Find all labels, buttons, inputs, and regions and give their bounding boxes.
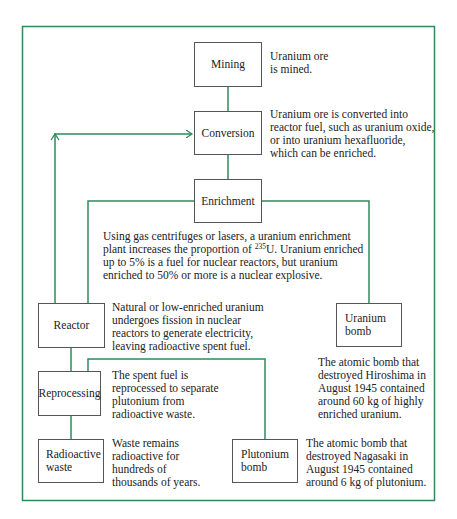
desc-line: Natural or low-enriched uranium (112, 301, 264, 314)
node-label: Mining (211, 58, 245, 71)
node-label: Reprocessing (39, 387, 101, 400)
node-uranium-bomb: Uranium bomb (336, 303, 402, 347)
desc-fragment: U. Uranium enriched (266, 243, 363, 255)
desc-line: leaving radioactive spent fuel. (112, 340, 264, 353)
desc-line: August 1945 contained (306, 463, 426, 476)
nuclear-fuel-cycle-diagram: Mining Uranium ore is mined. Conversion … (0, 0, 457, 519)
isotope-superscript: 235 (255, 242, 266, 251)
desc-fragment: plant increases the proportion of (103, 243, 255, 255)
node-label: Conversion (201, 127, 254, 140)
desc-line: enriched to 50% or more is a nuclear exp… (103, 269, 363, 282)
desc-line: or into uranium hexafluoride, (270, 134, 434, 147)
node-label: bomb (345, 325, 386, 338)
desc-line: plutonium from (112, 395, 219, 408)
desc-line: Waste remains (112, 437, 200, 450)
desc-line: plant increases the proportion of 235U. … (103, 243, 363, 256)
desc-line: The atomic bomb that (318, 356, 426, 369)
desc-line: around 60 kg of highly (318, 395, 426, 408)
desc-mining: Uranium ore is mined. (270, 50, 328, 76)
desc-line: August 1945 contained (318, 382, 426, 395)
node-enrichment: Enrichment (194, 179, 262, 223)
node-radioactive-waste: Radioactive waste (38, 439, 104, 483)
desc-line: reprocessed to separate (112, 382, 219, 395)
node-label: Radioactive (46, 448, 101, 461)
desc-line: Uranium ore (270, 50, 328, 63)
desc-enrichment: Using gas centrifuges or lasers, a urani… (103, 230, 363, 282)
desc-line: destroyed Hiroshima in (318, 369, 426, 382)
desc-line: The atomic bomb that (306, 437, 426, 450)
desc-reactor: Natural or low-enriched uranium undergoe… (112, 301, 264, 353)
desc-line: which can be enriched. (270, 147, 434, 160)
desc-line: reactors to generate electricity, (112, 327, 264, 340)
desc-radioactive-waste: Waste remains radioactive for hundreds o… (112, 437, 200, 489)
desc-conversion: Uranium ore is converted into reactor fu… (270, 108, 434, 160)
desc-line: up to 5% is a fuel for nuclear reactors,… (103, 256, 363, 269)
node-label: Enrichment (201, 195, 255, 208)
desc-line: Uranium ore is converted into (270, 108, 434, 121)
desc-line: undergoes fission in nuclear (112, 314, 264, 327)
desc-line: radioactive waste. (112, 408, 219, 421)
node-label: bomb (241, 461, 289, 474)
desc-reprocessing: The spent fuel is reprocessed to separat… (112, 369, 219, 421)
desc-plutonium-bomb: The atomic bomb that destroyed Nagasaki … (306, 437, 426, 489)
desc-line: around 6 kg of plutonium. (306, 476, 426, 489)
desc-line: hundreds of (112, 463, 200, 476)
desc-line: The spent fuel is (112, 369, 219, 382)
desc-line: reactor fuel, such as uranium oxide, (270, 121, 434, 134)
desc-line: Using gas centrifuges or lasers, a urani… (103, 230, 363, 243)
node-label: waste (46, 461, 101, 474)
node-label: Uranium (345, 312, 386, 325)
node-label: Plutonium (241, 448, 289, 461)
desc-line: is mined. (270, 63, 328, 76)
node-mining: Mining (194, 42, 262, 87)
node-reactor: Reactor (38, 303, 105, 348)
desc-line: enriched uranium. (318, 408, 426, 421)
node-label: Reactor (54, 319, 90, 332)
desc-uranium-bomb: The atomic bomb that destroyed Hiroshima… (318, 356, 426, 421)
node-plutonium-bomb: Plutonium bomb (232, 439, 298, 483)
desc-line: radioactive for (112, 450, 200, 463)
desc-line: destroyed Nagasaki in (306, 450, 426, 463)
desc-line: thousands of years. (112, 476, 200, 489)
node-conversion: Conversion (194, 111, 262, 155)
node-reprocessing: Reprocessing (38, 371, 101, 416)
